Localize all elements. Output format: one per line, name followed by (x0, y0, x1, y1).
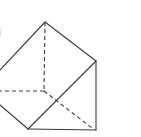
visible-edge (45, 22, 96, 61)
visible-edge (28, 61, 96, 129)
hidden-edge (44, 22, 45, 91)
visible-edge (0, 105, 28, 129)
visible-edges (0, 22, 96, 130)
hidden-edge (44, 91, 92, 128)
visible-edge (0, 22, 45, 70)
hidden-edges (0, 22, 92, 128)
visible-edge (28, 129, 96, 130)
prism-diagram (0, 0, 141, 137)
